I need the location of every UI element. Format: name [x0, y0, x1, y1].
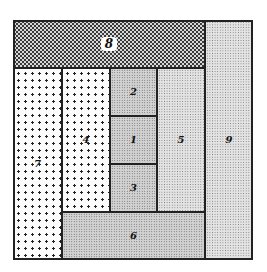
tile-label: 2 [130, 87, 137, 97]
tile-label: 8 [101, 37, 117, 51]
tiling-diagram: 897421356 [0, 0, 267, 272]
tile-label: 6 [130, 231, 137, 241]
tile-8: 8 [13, 20, 205, 68]
tile-label: 5 [178, 135, 185, 145]
tile-7: 7 [13, 68, 62, 260]
tile-label: 1 [130, 135, 137, 145]
tile-5: 5 [157, 68, 205, 212]
tile-label: 7 [34, 159, 41, 169]
tile-4: 4 [62, 68, 110, 212]
tile-3: 3 [110, 164, 157, 212]
tile-6: 6 [62, 212, 205, 260]
tile-label: 4 [83, 135, 90, 145]
tile-label: 9 [226, 135, 233, 145]
tile-1: 1 [110, 116, 157, 164]
tile-2: 2 [110, 68, 157, 116]
tile-9: 9 [205, 20, 253, 260]
tile-label: 3 [130, 183, 137, 193]
